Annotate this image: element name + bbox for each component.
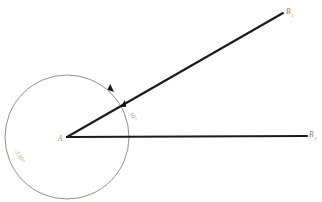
angle-label-outer: -330° [13, 147, 27, 164]
ray-a-b1 [67, 13, 283, 137]
point-label-b2: B [309, 130, 314, 139]
point-subscript-b1: 1 [292, 13, 294, 18]
point-subscript-b2: 2 [315, 136, 318, 141]
geometry-figure: A B 1 B 2 30° -330° [0, 0, 322, 202]
diagram-canvas: A B 1 B 2 30° -330° [0, 0, 322, 202]
point-label-b1: B [286, 7, 291, 16]
vertex-label-a: A [57, 135, 63, 143]
angle-label-inner: 30° [128, 109, 139, 122]
ray-a-b2 [67, 136, 307, 137]
